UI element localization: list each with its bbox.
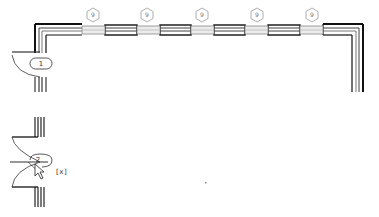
window-tag[interactable]: 9 xyxy=(141,8,153,22)
window-tag[interactable]: 9 xyxy=(251,8,263,22)
stray-point xyxy=(205,182,207,184)
window[interactable] xyxy=(300,26,323,34)
floor-plan-canvas[interactable]: 9 9 9 9 9 1 2 xyxy=(0,0,379,217)
window-tag-label: 9 xyxy=(145,11,149,18)
window[interactable] xyxy=(191,26,214,34)
wall-segment[interactable] xyxy=(160,25,191,35)
window[interactable] xyxy=(245,26,268,34)
window[interactable] xyxy=(82,26,105,34)
door-tag-label: 2 xyxy=(36,156,40,164)
window[interactable] xyxy=(137,26,160,34)
cursor-badge-text: [x] xyxy=(55,168,68,176)
move-cursor-badge-icon: [x] xyxy=(55,168,68,176)
window-tag-label: 9 xyxy=(255,11,259,18)
door-tag[interactable]: 1 xyxy=(30,58,52,69)
wall-segment[interactable] xyxy=(105,25,137,35)
door-tag-label: 1 xyxy=(39,60,43,68)
window-tag-label: 9 xyxy=(91,11,95,18)
window-tag-label: 9 xyxy=(310,11,314,18)
wall-segment[interactable] xyxy=(214,25,245,35)
cursor-arrow-icon xyxy=(35,164,44,179)
wall-segment-right-corner[interactable] xyxy=(323,24,363,92)
door-2[interactable] xyxy=(10,137,48,187)
wall-segment[interactable] xyxy=(268,25,300,35)
top-wall[interactable] xyxy=(35,24,363,92)
window-tag[interactable]: 9 xyxy=(306,8,318,22)
door-tag-selected[interactable]: 2 xyxy=(30,154,52,167)
window-tag-label: 9 xyxy=(200,11,204,18)
window-tag[interactable]: 9 xyxy=(196,8,208,22)
window-tag[interactable]: 9 xyxy=(87,8,99,22)
wall-segment-left-corner[interactable] xyxy=(35,24,82,53)
